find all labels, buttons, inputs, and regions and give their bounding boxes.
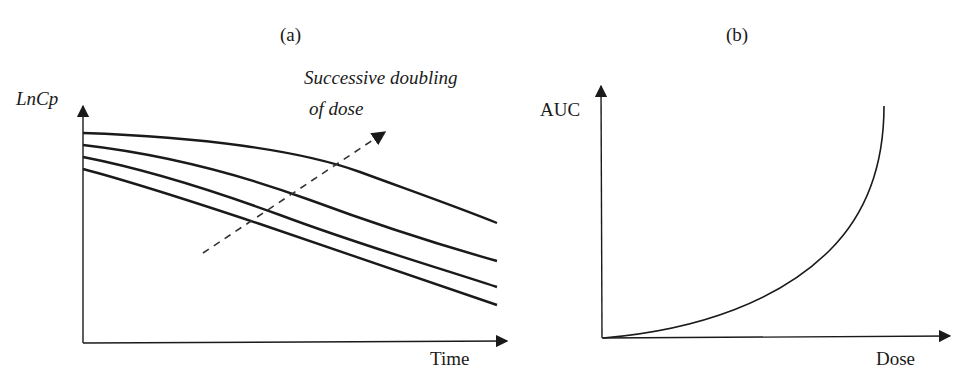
panel-b-chart bbox=[601, 86, 950, 338]
panel-b-y-axis bbox=[601, 86, 602, 338]
annotation-line1: Successive doubling bbox=[304, 67, 458, 89]
curve-auc-vs-dose bbox=[603, 106, 884, 338]
panel-a-label: (a) bbox=[280, 24, 301, 46]
annotation-line2: of dose bbox=[309, 98, 363, 120]
panel-b-y-axis-label: AUC bbox=[540, 99, 580, 121]
curve-dose-4x bbox=[83, 145, 497, 261]
panel-b-x-axis-label: Dose bbox=[876, 348, 915, 370]
panel-b-x-axis bbox=[602, 336, 950, 338]
panel-a-y-axis-label: LnCp bbox=[16, 88, 58, 110]
curve-dose-2x bbox=[83, 157, 497, 287]
panel-a-chart bbox=[83, 106, 507, 343]
panel-a-x-axis-label: Time bbox=[430, 348, 469, 370]
curve-dose-8x bbox=[83, 133, 497, 223]
figure-canvas bbox=[0, 0, 961, 389]
panel-b-label: (b) bbox=[726, 24, 748, 46]
curve-dose-1x bbox=[83, 169, 497, 305]
panel-a-x-axis bbox=[83, 341, 507, 343]
